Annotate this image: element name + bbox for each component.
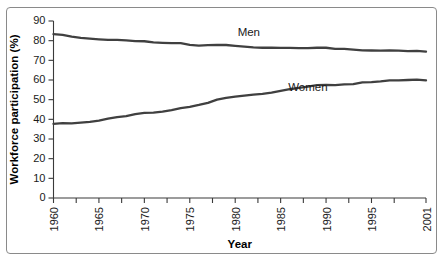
line-chart: 0102030405060708090196019651970197519801…	[0, 0, 445, 267]
y-axis-tick-label: 50	[33, 93, 45, 105]
y-axis-title: Workforce participation (%)	[8, 34, 20, 184]
x-axis-tick-label: 1965	[93, 207, 105, 231]
y-axis-tick-label: 70	[33, 54, 45, 66]
x-axis-tick-label: 1970	[139, 207, 151, 231]
x-axis-tick-label: 1975	[184, 207, 196, 231]
y-axis-tick-label: 20	[33, 152, 45, 164]
y-axis-tick-label: 60	[33, 73, 45, 85]
y-axis-tick-label: 90	[33, 14, 45, 26]
x-axis-tick-label: 2001	[421, 207, 433, 231]
figure-container: 0102030405060708090196019651970197519801…	[0, 0, 445, 267]
x-axis-tick-label: 1960	[48, 207, 60, 231]
x-axis-tick-label: 1985	[275, 207, 287, 231]
series-label-women: Women	[288, 81, 327, 93]
plot-area: 0102030405060708090196019651970197519801…	[8, 14, 433, 250]
y-axis-tick-label: 40	[33, 113, 45, 125]
x-axis-title: Year	[228, 238, 253, 250]
series-label-men: Men	[238, 26, 260, 38]
y-axis-tick-label: 30	[33, 132, 45, 144]
y-axis-tick-label: 0	[39, 191, 45, 203]
x-axis-tick-label: 1980	[230, 207, 242, 231]
y-axis-tick-label: 80	[33, 34, 45, 46]
y-axis-tick-label: 10	[33, 172, 45, 184]
x-axis-tick-label: 1990	[321, 207, 333, 231]
x-axis-tick-label: 1995	[366, 207, 378, 231]
axis-spines	[54, 21, 427, 198]
series-line-women	[54, 80, 427, 124]
